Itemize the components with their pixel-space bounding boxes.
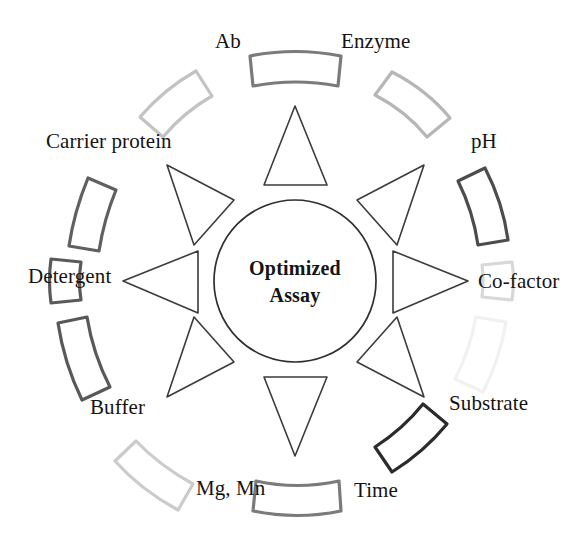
radial-diagram-canvas: Optimized Assay Ab Enzyme Carrier protei… (0, 0, 584, 535)
hub-circle (214, 200, 376, 362)
ring-block-ab (140, 71, 212, 137)
label-enzyme: Enzyme (341, 29, 410, 53)
spoke-triangle-east (393, 251, 468, 313)
ring-block-enzyme (375, 72, 450, 137)
label-time: Time (354, 478, 398, 502)
label-detergent: Detergent (28, 264, 111, 288)
label-ph: pH (471, 129, 497, 153)
ring-block-ring-top (250, 52, 341, 87)
ring-block-carrier-protein (69, 178, 116, 251)
ring-block-substrate (455, 317, 506, 392)
label-substrate: Substrate (449, 391, 528, 415)
spoke-triangle-northeast (357, 165, 424, 245)
label-ab: Ab (215, 29, 241, 53)
spoke-triangle-north (264, 106, 327, 185)
hub-label-line2: Assay (269, 284, 320, 307)
spoke-triangle-south (264, 377, 327, 456)
label-buffer: Buffer (90, 395, 145, 419)
label-carrier-protein: Carrier protein (46, 129, 172, 153)
ring-block-ring-bottom (253, 481, 341, 516)
hub-label-line1: Optimized (249, 257, 341, 280)
ring-block-mg-mn (115, 441, 193, 510)
ring-block-ph (458, 168, 508, 245)
spoke-triangle-southeast (357, 317, 424, 397)
label-co-factor: Co-factor (478, 269, 559, 293)
spoke-triangle-northwest (167, 165, 234, 245)
label-mg-mn: Mg, Mn (196, 476, 266, 500)
assay-wheel-diagram: Optimized Assay Ab Enzyme Carrier protei… (0, 0, 584, 535)
ring-block-time (375, 404, 447, 472)
spoke-triangle-southwest (167, 317, 234, 397)
ring-block-buffer (58, 317, 110, 400)
spoke-triangle-west (123, 251, 198, 313)
